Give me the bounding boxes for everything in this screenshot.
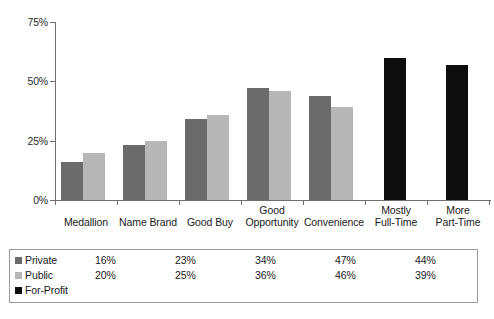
- y-tick-label-75: 75%: [8, 17, 48, 28]
- legend-series-label: For-Profit: [25, 284, 68, 296]
- bar-forprofit: [384, 58, 406, 200]
- bar-forprofit: [446, 65, 468, 200]
- x-category-label: MorePart-Time: [427, 204, 489, 228]
- x-axis-line: [55, 200, 491, 201]
- legend-value-cell: 47%: [333, 253, 413, 268]
- x-category-label: Convenience: [303, 216, 365, 228]
- legend-series-cell: For-Profit: [10, 283, 93, 298]
- bar-public: [83, 153, 105, 200]
- series-value-table: Private16%23%34%47%44%Public20%25%36%46%…: [10, 253, 494, 298]
- x-category-label-line: Medallion: [55, 216, 117, 228]
- legend-value-cell: 34%: [253, 253, 333, 268]
- plot-area: [55, 22, 491, 200]
- x-category-label-line: Convenience: [303, 216, 365, 228]
- legend-series-label: Private: [25, 254, 57, 266]
- bar-group: [55, 22, 117, 200]
- dark-gray-swatch: [15, 257, 22, 264]
- x-category-label-line: Part-Time: [427, 216, 489, 228]
- x-category-label-line: Good: [241, 204, 303, 216]
- bar-group: [117, 22, 179, 200]
- legend-value-cell: [413, 283, 493, 298]
- legend-row: For-Profit60%57%: [10, 283, 494, 298]
- legend-value-cell: 46%: [333, 268, 413, 283]
- x-axis-category-labels: MedallionName BrandGood BuyGoodOpportuni…: [55, 204, 491, 240]
- x-category-label: Name Brand: [117, 216, 179, 228]
- x-category-label: MostlyFull-Time: [365, 204, 427, 228]
- y-axis-tick-labels: 75% 50% 25% 0%: [8, 0, 48, 240]
- x-category-label-line: Opportunity: [241, 216, 303, 228]
- legend-value-cell: 44%: [413, 253, 493, 268]
- x-category-label-line: Name Brand: [117, 216, 179, 228]
- legend-value-cell: [333, 283, 413, 298]
- bar-group: [427, 22, 489, 200]
- legend-series-label: Public: [25, 269, 53, 281]
- x-category-label-line: More: [427, 204, 489, 216]
- legend-value-cell: 20%: [93, 268, 173, 283]
- y-tick-label-25: 25%: [8, 136, 48, 147]
- bar-chart: 75% 50% 25% 0% MedallionName BrandGood B…: [0, 0, 494, 240]
- y-tick-label-0: 0%: [8, 195, 48, 206]
- x-category-label: Medallion: [55, 216, 117, 228]
- legend-value-cell: 25%: [173, 268, 253, 283]
- legend-value-cell: 36%: [253, 268, 333, 283]
- black-swatch: [15, 287, 22, 294]
- x-category-label-line: Full-Time: [365, 216, 427, 228]
- legend-row: Private16%23%34%47%44%: [10, 253, 494, 268]
- bar-public: [331, 107, 353, 200]
- bar-public: [207, 115, 229, 200]
- bar-private: [309, 96, 331, 200]
- bar-private: [247, 88, 269, 200]
- legend-row: Public20%25%36%46%39%: [10, 268, 494, 283]
- light-gray-swatch: [15, 272, 22, 279]
- bar-group: [303, 22, 365, 200]
- legend-value-cell: 39%: [413, 268, 493, 283]
- bar-group: [365, 22, 427, 200]
- legend-series-cell: Public: [10, 268, 93, 283]
- bar-private: [61, 162, 83, 200]
- legend-value-cell: [173, 283, 253, 298]
- x-category-label-line: Mostly: [365, 204, 427, 216]
- x-category-label: Good Buy: [179, 216, 241, 228]
- bar-private: [185, 119, 207, 200]
- legend-value-cell: [93, 283, 173, 298]
- legend-value-cell: 23%: [173, 253, 253, 268]
- legend-value-cell: [253, 283, 333, 298]
- bar-private: [123, 145, 145, 200]
- x-category-label-line: Good Buy: [179, 216, 241, 228]
- legend-data-table: Private16%23%34%47%44%Public20%25%36%46%…: [9, 249, 478, 303]
- legend-series-cell: Private: [10, 253, 93, 268]
- bar-public: [145, 141, 167, 200]
- legend-value-cell: 16%: [93, 253, 173, 268]
- bar-group: [241, 22, 303, 200]
- bar-public: [269, 91, 291, 200]
- y-tick-label-50: 50%: [8, 76, 48, 87]
- bar-group: [179, 22, 241, 200]
- x-category-label: GoodOpportunity: [241, 204, 303, 228]
